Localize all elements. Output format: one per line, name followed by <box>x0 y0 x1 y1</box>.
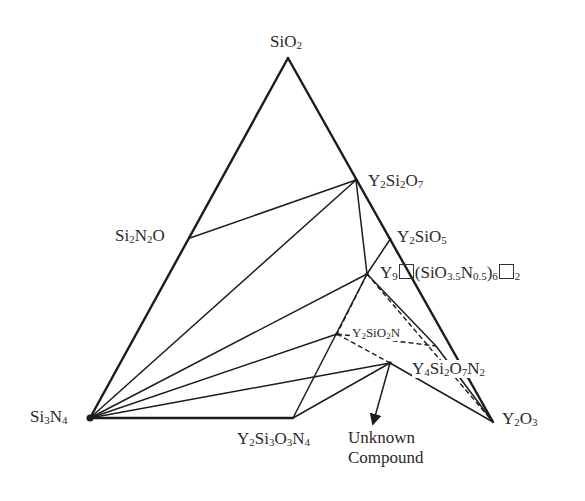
label-apatite: Y9(SiO3.5N0.5)62 <box>380 264 520 282</box>
label-y2si3o3n4: Y2Si3O3N4 <box>237 430 310 448</box>
node-unknown <box>388 361 392 365</box>
phase-diagram <box>0 0 585 501</box>
label-si2n2o: Si2N2O <box>115 227 165 245</box>
label-y4si2o7n2: Y4Si2O7N2 <box>412 360 485 378</box>
node-si3n4 <box>87 415 94 422</box>
label-y2si2o7: Y2Si2O7 <box>368 172 423 190</box>
label-unknown-compound: UnknownCompound <box>348 428 424 467</box>
tie-line-si3n4-y2si2o7 <box>90 180 356 418</box>
tie-line-si3n4-apatite <box>90 274 367 418</box>
tie-line-si3n4-unknown <box>90 363 390 418</box>
label-y2sio5: Y2SiO5 <box>397 228 447 246</box>
label-si3n4: Si3N4 <box>30 408 67 426</box>
label-y2sio2n: Y2SiO2N <box>352 326 400 341</box>
label-y2o3: Y2O3 <box>502 410 538 428</box>
vacancy-box <box>399 264 414 279</box>
node-y2si2o7 <box>354 178 358 182</box>
label-sio2: SiO2 <box>270 33 302 51</box>
node-apatite <box>365 272 369 276</box>
dashed-tie-line-apatite-y2o3 <box>367 274 493 422</box>
node-y2sio2n <box>335 332 339 336</box>
vacancy-box <box>499 264 514 279</box>
tie-line-y4si2o7n2-y2o3 <box>436 346 493 422</box>
